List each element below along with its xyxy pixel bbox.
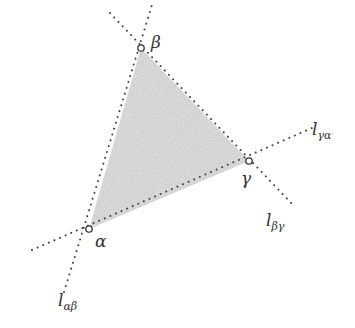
- vertex-label-gamma: γ: [241, 168, 252, 188]
- line-label-l-alpha-beta: lαβ: [58, 290, 77, 313]
- vertex-beta-marker: [138, 45, 144, 51]
- triangle-diagram: β γ α lαβ lβγ lγα: [0, 0, 355, 328]
- vertex-label-alpha: α: [95, 231, 107, 251]
- diagram-canvas: β γ α lαβ lβγ lγα: [0, 0, 355, 328]
- line-label-subscript: γα: [317, 129, 332, 142]
- vertex-label-beta: β: [150, 32, 161, 52]
- vertex-gamma-marker: [246, 158, 252, 164]
- line-label-l-gamma-alpha: lγα: [312, 119, 332, 142]
- line-label-subscript: βγ: [270, 220, 284, 233]
- vertex-alpha-marker: [86, 226, 92, 232]
- line-label-subscript: αβ: [63, 300, 77, 313]
- line-label-l-beta-gamma: lβγ: [266, 210, 285, 233]
